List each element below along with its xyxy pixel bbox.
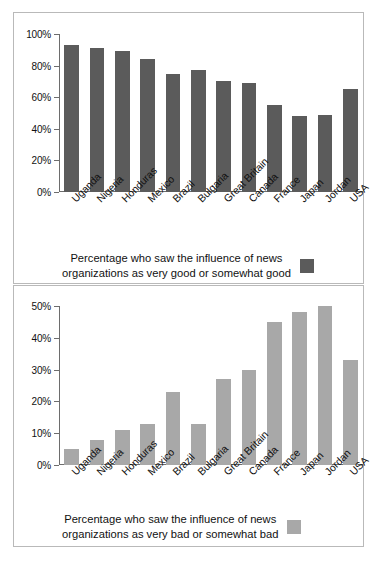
plot-area-bad: 50%40%30%20%10%0% UgandaNigeriaHondurasM… bbox=[59, 306, 363, 465]
y-tick-label-bad-influence-1: 40% bbox=[32, 332, 51, 343]
y-tick-label-good-influence-0: 100% bbox=[26, 29, 51, 40]
category-labels-good: UgandaNigeriaHondurasMexicoBrazilBulgari… bbox=[59, 192, 363, 250]
plot-area-good: 100%80%60%40%20%0% UgandaNigeriaHonduras… bbox=[59, 34, 363, 192]
bars-bad bbox=[59, 306, 363, 465]
y-tick-label-bad-influence-2: 30% bbox=[32, 364, 51, 375]
legend-good: Percentage who saw the influence of news… bbox=[62, 251, 314, 280]
y-tick-label-bad-influence-4: 10% bbox=[32, 428, 51, 439]
y-tick-label-bad-influence-3: 20% bbox=[32, 396, 51, 407]
legend-bad: Percentage who saw the influence of news… bbox=[62, 512, 301, 541]
legend-good-text: Percentage who saw the influence of news… bbox=[62, 251, 291, 280]
legend-good-swatch bbox=[300, 259, 314, 273]
bar bbox=[191, 70, 206, 192]
y-tick-label-good-influence-2: 60% bbox=[32, 92, 51, 103]
legend-bad-swatch bbox=[287, 520, 301, 534]
y-tick-label-good-influence-1: 80% bbox=[32, 60, 51, 71]
y-tick-label-bad-influence-5: 0% bbox=[37, 460, 51, 471]
legend-bad-text: Percentage who saw the influence of news… bbox=[62, 512, 278, 541]
figure-two-bar-charts: 100%80%60%40%20%0% UgandaNigeriaHonduras… bbox=[0, 0, 376, 562]
bars-good bbox=[59, 34, 363, 192]
bar bbox=[267, 322, 282, 465]
y-tick-label-good-influence-4: 20% bbox=[32, 155, 51, 166]
bar bbox=[292, 312, 307, 465]
bar bbox=[115, 51, 130, 192]
chart-panel-bad: 50%40%30%20%10%0% UgandaNigeriaHondurasM… bbox=[13, 285, 364, 547]
y-tick-label-good-influence-3: 40% bbox=[32, 123, 51, 134]
bar bbox=[64, 45, 79, 192]
y-tick-label-good-influence-5: 0% bbox=[37, 187, 51, 198]
bar bbox=[90, 48, 105, 192]
chart-panel-good: 100%80%60%40%20%0% UgandaNigeriaHonduras… bbox=[13, 12, 364, 284]
y-tick-label-bad-influence-0: 50% bbox=[32, 301, 51, 312]
bar bbox=[318, 306, 333, 465]
